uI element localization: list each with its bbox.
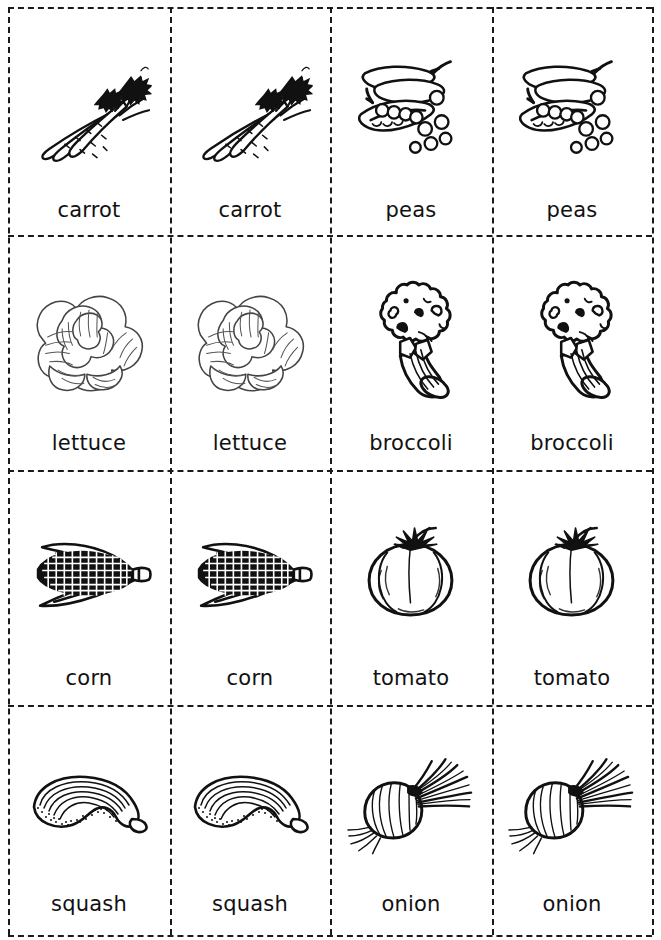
flashcard-label: broccoli [369, 433, 453, 470]
flashcard[interactable]: corn [8, 470, 170, 705]
squash-icon [170, 705, 330, 894]
flashcard-label: peas [386, 200, 437, 235]
peas-icon [330, 7, 492, 200]
flashcard[interactable]: peas [492, 7, 652, 235]
flashcard[interactable]: squash [170, 705, 330, 935]
onion-icon [330, 705, 492, 894]
carrot-icon [170, 7, 330, 200]
flashcard[interactable]: carrot [8, 7, 170, 235]
flashcard-label: corn [227, 668, 274, 705]
flashcard[interactable]: tomato [492, 470, 652, 705]
flashcard[interactable]: onion [330, 705, 492, 935]
lettuce-icon [8, 235, 170, 433]
flashcard[interactable]: squash [8, 705, 170, 935]
flashcard-label: lettuce [52, 433, 126, 470]
flashcard-grid: carrot carrot peas peas lettuce [8, 7, 652, 935]
flashcard-label: onion [542, 894, 601, 935]
tomato-icon [492, 470, 652, 668]
squash-icon [8, 705, 170, 894]
flashcard-label: peas [547, 200, 598, 235]
flashcard-label: corn [66, 668, 113, 705]
flashcard[interactable]: broccoli [492, 235, 652, 470]
broccoli-icon [492, 235, 652, 433]
carrot-icon [8, 7, 170, 200]
flashcard[interactable]: lettuce [8, 235, 170, 470]
flashcard-label: squash [212, 894, 288, 935]
flashcard[interactable]: broccoli [330, 235, 492, 470]
corn-icon [170, 470, 330, 668]
flashcard-label: broccoli [530, 433, 614, 470]
flashcard[interactable]: peas [330, 7, 492, 235]
peas-icon [492, 7, 652, 200]
lettuce-icon [170, 235, 330, 433]
flashcard-sheet: carrot carrot peas peas lettuce [0, 0, 661, 940]
flashcard-label: carrot [218, 200, 281, 235]
tomato-icon [330, 470, 492, 668]
onion-icon [492, 705, 652, 894]
flashcard[interactable]: lettuce [170, 235, 330, 470]
flashcard[interactable]: tomato [330, 470, 492, 705]
broccoli-icon [330, 235, 492, 433]
flashcard-label: lettuce [213, 433, 287, 470]
flashcard[interactable]: onion [492, 705, 652, 935]
corn-icon [8, 470, 170, 668]
flashcard-label: tomato [534, 668, 611, 705]
flashcard-label: squash [51, 894, 127, 935]
flashcard-label: tomato [373, 668, 450, 705]
cut-line-vertical [652, 7, 654, 935]
flashcard[interactable]: corn [170, 470, 330, 705]
flashcard[interactable]: carrot [170, 7, 330, 235]
flashcard-label: onion [381, 894, 440, 935]
flashcard-label: carrot [57, 200, 120, 235]
cut-line-horizontal [8, 935, 652, 937]
